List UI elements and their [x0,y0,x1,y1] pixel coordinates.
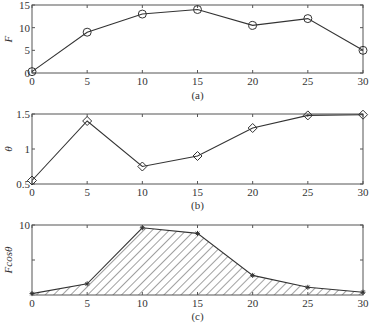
y-tick-label: 1.5 [16,108,30,120]
x-tick-label: 25 [302,297,314,309]
y-axis-label: F [2,35,14,43]
y-tick-label: 1 [25,143,31,155]
x-tick-label: 15 [192,297,204,309]
star-marker [30,291,35,296]
axes-frame [32,114,363,184]
y-tick-label: 5 [25,44,31,56]
subplot-caption: (c) [191,310,204,323]
x-tick-label: 30 [358,186,370,198]
subplot-caption: (a) [191,89,204,102]
x-tick-label: 10 [137,75,149,87]
star-marker [250,273,255,278]
x-tick-label: 25 [302,186,314,198]
y-tick-label: 10 [19,22,31,34]
x-tick-label: 10 [137,297,149,309]
figure: 051015202530051015F(a) 0510152025300.511… [0,0,372,335]
x-tick-label: 5 [84,186,90,198]
subplot-a-force: 051015202530051015F(a) [2,0,369,102]
y-axis-label: Fcosθ [2,246,14,274]
subplot-caption: (b) [191,199,204,212]
subplot-c-fcos-area: 05101520253010Fcosθ(c) [2,219,369,323]
x-tick-label: 25 [302,75,314,87]
x-tick-label: 20 [247,186,259,198]
x-tick-label: 20 [247,297,259,309]
y-axis-label: θ [2,146,14,152]
x-tick-label: 30 [358,75,370,87]
y-tick-label: 10 [19,219,31,231]
x-tick-label: 0 [29,75,35,87]
axes-frame [32,5,363,73]
x-tick-label: 0 [29,186,35,198]
x-tick-label: 15 [192,186,204,198]
y-tick-label: 15 [19,0,31,11]
subplot-b-angle: 0510152025300.511.5θ(b) [2,108,369,212]
x-tick-label: 30 [358,297,370,309]
x-tick-label: 5 [84,75,90,87]
x-tick-label: 5 [84,297,90,309]
star-marker [361,290,366,295]
x-tick-label: 0 [29,297,35,309]
star-marker [195,231,200,236]
x-tick-label: 20 [247,75,259,87]
star-marker [140,225,145,230]
star-marker [85,281,90,286]
series-line [32,10,363,72]
x-tick-label: 10 [137,186,149,198]
series-line [32,115,363,181]
chart-canvas: 051015202530051015F(a) 0510152025300.511… [0,0,372,335]
star-marker [305,285,310,290]
x-tick-label: 15 [192,75,204,87]
